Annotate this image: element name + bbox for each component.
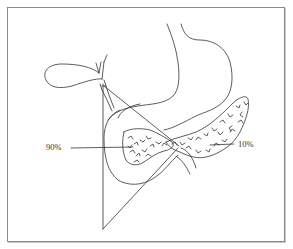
gallbladder-outline: [45, 55, 114, 111]
pancreas-body-tail: [166, 97, 249, 158]
label-head-percent: 90%: [46, 143, 62, 152]
anatomy-drawing: [0, 0, 293, 249]
leader-line-90: [71, 147, 133, 148]
stomach-outline: [108, 24, 232, 130]
label-tail-percent: 10%: [238, 140, 254, 149]
duodenum-outline: [104, 104, 196, 184]
